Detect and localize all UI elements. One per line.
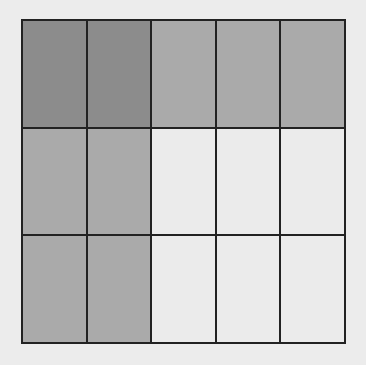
- fraction-grid: [21, 19, 346, 344]
- grid-cell-light: [152, 236, 215, 342]
- grid-cell-light: [281, 236, 344, 342]
- grid-cell-medium: [88, 236, 151, 342]
- grid-cell-dark: [23, 21, 86, 127]
- grid-cell-light: [217, 236, 280, 342]
- grid-cell-light: [217, 129, 280, 235]
- grid-cell-medium: [281, 21, 344, 127]
- grid-cell-dark: [88, 21, 151, 127]
- grid-cell-medium: [23, 129, 86, 235]
- grid-cell-medium: [152, 21, 215, 127]
- grid-cell-medium: [88, 129, 151, 235]
- grid-cell-light: [152, 129, 215, 235]
- grid-cell-medium: [217, 21, 280, 127]
- grid-cell-light: [281, 129, 344, 235]
- grid-cell-medium: [23, 236, 86, 342]
